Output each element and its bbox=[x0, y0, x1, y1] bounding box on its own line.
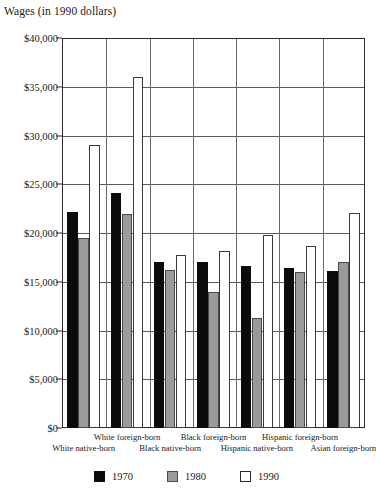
legend-label: 1980 bbox=[185, 471, 206, 482]
bar-1990-hispanic-foreign-born bbox=[306, 246, 317, 428]
legend-label: 1970 bbox=[112, 471, 133, 482]
bar-1970-asian-foreign-born bbox=[327, 271, 338, 428]
bar-1990-hispanic-native-born bbox=[263, 235, 274, 428]
bar-1990-white-foreign-born bbox=[133, 77, 144, 428]
y-axis: $0$5,000$10,000$15,000$20,000$25,000$30,… bbox=[0, 0, 58, 491]
y-axis-tick-label: $5,000 bbox=[29, 374, 58, 385]
x-axis-labels: White native-bornWhite foreign-bornBlack… bbox=[0, 430, 373, 460]
x-axis-label-white-native-born: White native-born bbox=[52, 443, 115, 453]
y-axis-tick-label: $40,000 bbox=[24, 33, 58, 44]
legend-swatch-icon-1980 bbox=[167, 471, 178, 482]
bar-1970-white-native-born bbox=[67, 212, 78, 428]
x-axis-label-asian-foreign-born: Asian foreign-born bbox=[311, 443, 376, 453]
bar-1970-hispanic-native-born bbox=[241, 266, 252, 428]
x-axis-label-black-foreign-born: Black foreign-born bbox=[181, 432, 247, 442]
bar-1970-black-native-born bbox=[154, 262, 165, 428]
bar-1970-hispanic-foreign-born bbox=[284, 268, 295, 428]
bar-1980-hispanic-native-born bbox=[252, 318, 263, 428]
bar-1990-asian-foreign-born bbox=[349, 213, 360, 428]
y-axis-tick-label: $25,000 bbox=[24, 179, 58, 190]
bar-1980-hispanic-foreign-born bbox=[295, 272, 306, 428]
y-axis-tick-label: $10,000 bbox=[24, 325, 58, 336]
bar-1990-white-native-born bbox=[89, 145, 100, 428]
bar-1980-white-foreign-born bbox=[122, 214, 133, 429]
x-axis-label-hispanic-foreign-born: Hispanic foreign-born bbox=[262, 432, 338, 442]
y-axis-tick-label: $20,000 bbox=[24, 228, 58, 239]
bar-1980-asian-foreign-born bbox=[338, 262, 349, 428]
bar-1990-black-native-born bbox=[176, 255, 187, 428]
bar-1990-black-foreign-born bbox=[219, 251, 230, 428]
chart-legend: 197019801990 bbox=[0, 464, 373, 488]
legend-item-1990[interactable]: 1990 bbox=[240, 471, 279, 482]
y-axis-tick-label: $30,000 bbox=[24, 130, 58, 141]
x-axis-label-white-foreign-born: White foreign-born bbox=[94, 432, 161, 442]
legend-label: 1990 bbox=[258, 471, 279, 482]
legend-item-1970[interactable]: 1970 bbox=[94, 471, 133, 482]
legend-swatch-icon-1990 bbox=[240, 471, 251, 482]
x-axis-label-black-native-born: Black native-born bbox=[139, 443, 201, 453]
bar-1980-black-foreign-born bbox=[208, 292, 219, 429]
bar-1980-white-native-born bbox=[78, 238, 89, 428]
y-axis-tick-label: $15,000 bbox=[24, 276, 58, 287]
x-axis-label-hispanic-native-born: Hispanic native-born bbox=[221, 443, 293, 453]
bar-1970-white-foreign-born bbox=[111, 193, 122, 428]
legend-item-1980[interactable]: 1980 bbox=[167, 471, 206, 482]
y-axis-tick-label: $35,000 bbox=[24, 81, 58, 92]
bars-layer bbox=[62, 38, 365, 428]
bar-1980-black-native-born bbox=[165, 270, 176, 428]
legend-swatch-icon-1970 bbox=[94, 471, 105, 482]
bar-1970-black-foreign-born bbox=[197, 262, 208, 428]
